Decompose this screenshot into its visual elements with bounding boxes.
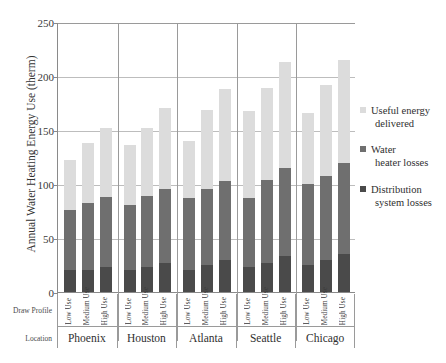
draw-profile-tick-label: High Use [101,297,109,325]
bar-segment-heater [64,210,76,270]
location-tick-label: Seattle [250,332,281,344]
axis-separator [295,294,296,326]
draw-profile-tick-label: Low Use [184,298,192,325]
draw-profile-tick-label: Low Use [244,298,252,325]
bar-segment-heater [219,181,231,260]
bar-segment-heater [261,180,273,263]
legend-label: Distribution [371,183,446,196]
bar-segment-dist [183,270,195,292]
location-tick-label: Atlanta [189,332,223,344]
bar-segment-heater [82,203,94,270]
bar-segment-useful [279,62,291,168]
legend-item: Useful energydelivered [360,104,446,130]
bars-container [58,23,355,292]
plot-area: 050100150200250 [57,23,355,293]
bar-segment-useful [320,85,332,177]
bar-segment-useful [100,128,112,197]
axis-separator [57,294,58,326]
bar-segment-useful [141,128,153,196]
bar-segment-useful [82,143,94,203]
axis-separator [236,327,237,348]
legend-label: delivered [371,117,446,130]
bar-segment-heater [320,176,332,259]
axis-separator [57,327,58,348]
legend-label: heater losses [371,156,446,169]
heater-swatch-icon [360,146,366,152]
stacked-bar-chart: Annual Water Heating Energy Use (therm) … [0,0,446,363]
draw-profile-tick-label: High Use [220,297,228,325]
bar-segment-useful [338,60,350,164]
bar-segment-dist [279,256,291,292]
bar-segment-heater [141,196,153,267]
draw-profile-tick-label: Medium Use [142,287,150,325]
bar-segment-dist [64,270,76,292]
draw-profile-tick-label: Medium Use [262,287,270,325]
chart-legend: Useful energydeliveredWaterheater losses… [360,104,446,222]
bar-segment-useful [302,113,314,184]
location-tick-label: Houston [127,332,166,344]
axis-separator [176,327,177,348]
draw-profile-tick-label: High Use [160,297,168,325]
location-tick-label: Chicago [306,332,344,344]
bar-segment-dist [243,267,255,292]
bar-segment-heater [243,198,255,267]
draw-profile-tick-label: Medium Use [202,287,210,325]
y-axis-title: Annual Water Heating Energy Use (therm) [25,19,37,289]
bar-segment-heater [183,198,195,270]
bar-segment-dist [159,263,171,292]
y-axis-tick-label: 200 [38,72,55,83]
location-axis-label: Location [25,333,52,342]
legend-item: Distributionsystem losses [360,183,446,209]
bar-segment-useful [261,88,273,180]
draw-profile-tick-label: Low Use [303,298,311,325]
bar-segment-heater [338,163,350,254]
draw-profile-axis-label: Draw Profile [13,306,52,315]
bar-segment-dist [100,267,112,292]
location-tick-label: Phoenix [68,332,106,344]
bar-segment-heater [279,168,291,257]
bar-segment-useful [64,160,76,210]
bar-segment-dist [338,254,350,292]
draw-profile-tick-label: Low Use [125,298,133,325]
bar-segment-useful [201,110,213,190]
draw-profile-tick-label: High Use [280,297,288,325]
draw-profile-tick-label: High Use [339,297,347,325]
bar-segment-useful [124,145,136,204]
y-axis-tick-label: 150 [38,126,55,137]
location-axis: Location PhoenixHoustonAtlantaSeattleChi… [57,326,355,348]
bar-segment-useful [243,111,255,198]
draw-profile-tick-label: Medium Use [321,287,329,325]
bar-segment-useful [159,108,171,189]
bar-segment-dist [124,270,136,292]
bar-segment-dist [219,260,231,292]
legend-item: Waterheater losses [360,143,446,169]
y-axis-tick-label: 50 [43,234,54,245]
y-axis-tick-label: 100 [38,180,55,191]
bar-segment-heater [159,189,171,262]
axis-separator [117,327,118,348]
legend-label: Useful energy [371,104,446,117]
axis-separator [354,327,355,348]
legend-label: system losses [371,196,446,209]
bar-segment-heater [302,184,314,265]
draw-profile-tick-label: Medium Use [83,287,91,325]
axis-separator [295,327,296,348]
axis-separator [176,294,177,326]
bar-segment-useful [183,141,195,198]
bar-segment-dist [302,265,314,292]
bar-segment-heater [100,197,112,267]
draw-profile-axis: Draw Profile Low UseMedium UseHigh UseLo… [57,294,355,326]
draw-profile-tick-label: Low Use [65,298,73,325]
axis-separator [117,294,118,326]
dist-swatch-icon [360,186,366,192]
bar-segment-heater [124,205,136,271]
useful-swatch-icon [360,107,366,113]
legend-label: Water [371,143,446,156]
bar-segment-useful [219,89,231,181]
bar-segment-heater [201,189,213,265]
axis-separator [354,294,355,326]
y-axis-tick-label: 250 [38,18,55,29]
axis-separator [236,294,237,326]
